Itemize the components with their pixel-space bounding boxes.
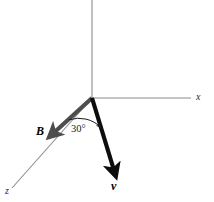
diagram-canvas xyxy=(0,0,214,202)
velocity-vector-arrow xyxy=(92,98,115,172)
magnetic-field-vector-label: B xyxy=(36,125,44,137)
z-axis-label: z xyxy=(5,186,9,196)
angle-value-label: 30° xyxy=(71,124,86,135)
velocity-vector-label: v xyxy=(111,180,116,192)
vector-diagram-figure: x z B v 30° xyxy=(0,0,214,202)
x-axis-label: x xyxy=(196,92,200,102)
